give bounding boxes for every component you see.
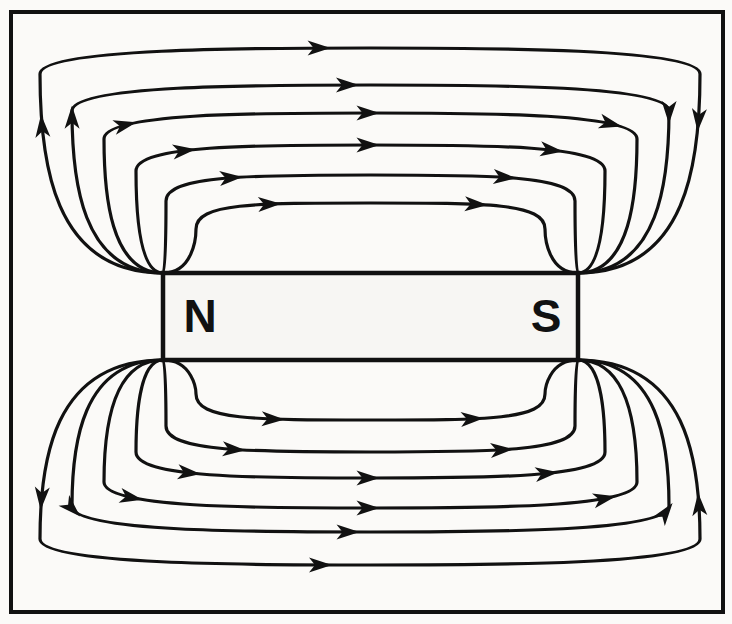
magnetic-field-figure: N S xyxy=(0,0,732,624)
south-pole-label: S xyxy=(531,290,562,342)
north-pole-label: N xyxy=(183,290,216,342)
field-line-canvas: N S xyxy=(0,0,732,624)
bar-magnet-body xyxy=(163,273,578,360)
